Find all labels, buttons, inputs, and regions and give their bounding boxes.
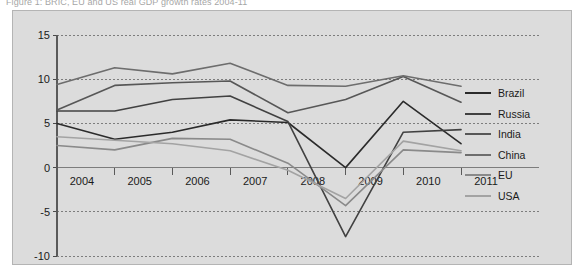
legend-item-russia[interactable]: Russia <box>465 104 561 125</box>
chart-legend: Brazil Russia India China EU USA <box>465 83 561 206</box>
legend-swatch-brazil <box>465 92 491 94</box>
y-axis-label: -10 <box>34 250 50 262</box>
x-axis-label: 2007 <box>243 175 267 187</box>
series-line-china <box>57 63 461 86</box>
chart-frame: 151050-5-1020042005200620072008200920102… <box>12 10 572 265</box>
legend-label-india: India <box>498 129 521 140</box>
legend-item-eu[interactable]: EU <box>465 165 561 186</box>
legend-item-china[interactable]: China <box>465 145 561 166</box>
legend-swatch-india <box>465 133 491 135</box>
y-axis-label: 5 <box>44 117 50 129</box>
series-line-brazil <box>57 101 461 167</box>
series-line-russia <box>57 96 461 237</box>
series-line-eu <box>57 138 461 205</box>
y-axis-label: 10 <box>38 73 50 85</box>
legend-item-brazil[interactable]: Brazil <box>465 83 561 104</box>
legend-swatch-china <box>465 154 491 156</box>
chart-page: Figure 1: BRIC, EU and US real GDP growt… <box>0 0 587 278</box>
figure-title: Figure 1: BRIC, EU and US real GDP growt… <box>6 0 247 7</box>
x-axis-label: 2006 <box>185 175 209 187</box>
x-axis-label: 2004 <box>70 175 94 187</box>
legend-label-eu: EU <box>498 170 513 181</box>
legend-item-india[interactable]: India <box>465 124 561 145</box>
x-axis-label: 2010 <box>416 175 440 187</box>
legend-label-china: China <box>498 150 525 161</box>
legend-swatch-usa <box>465 195 491 197</box>
legend-swatch-eu <box>465 174 491 176</box>
legend-label-usa: USA <box>498 191 520 202</box>
legend-label-russia: Russia <box>498 109 530 120</box>
y-axis-label: 0 <box>44 162 50 174</box>
legend-item-usa[interactable]: USA <box>465 186 561 207</box>
series-line-india <box>57 77 461 113</box>
x-axis-label: 2005 <box>127 175 151 187</box>
y-axis-label: -5 <box>40 206 50 218</box>
legend-label-brazil: Brazil <box>498 88 524 99</box>
y-axis-label: 15 <box>38 29 50 41</box>
legend-swatch-russia <box>465 113 491 115</box>
